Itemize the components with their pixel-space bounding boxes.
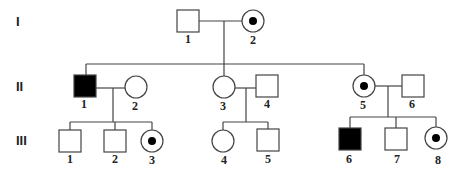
individual-III-4-female	[212, 130, 234, 152]
individual-label-I-1: 1	[185, 32, 191, 47]
generation-label-II: II	[16, 79, 23, 94]
carrier-dot-icon	[360, 82, 368, 90]
individual-II-2-female	[125, 76, 147, 98]
carrier-dot-icon	[148, 137, 156, 145]
individual-II-6-male	[402, 75, 424, 97]
individual-label-III-2: 2	[112, 152, 118, 167]
individual-III-7-male	[385, 128, 407, 150]
individual-label-III-6: 6	[346, 152, 352, 167]
individual-III-5-male	[257, 129, 279, 151]
individual-II-4-male	[256, 75, 278, 97]
individual-label-III-8: 8	[435, 153, 441, 168]
generation-label-I: I	[16, 14, 20, 29]
individual-label-II-1: 1	[81, 97, 87, 112]
individual-label-III-4: 4	[221, 153, 227, 168]
individual-label-II-2: 2	[132, 99, 138, 114]
individual-label-I-2: 2	[250, 33, 256, 48]
individual-I-1-male	[177, 10, 199, 32]
individual-label-II-6: 6	[409, 97, 415, 112]
individual-II-1-male-affected	[74, 75, 96, 97]
pedigree-chart	[0, 0, 465, 174]
individual-label-III-1: 1	[67, 152, 73, 167]
carrier-dot-icon	[249, 17, 257, 25]
generation-label-III: III	[16, 133, 27, 148]
individual-label-III-7: 7	[394, 152, 400, 167]
individual-III-6-male-affected	[339, 128, 361, 150]
individual-label-II-5: 5	[360, 98, 366, 113]
individual-label-III-3: 3	[149, 153, 155, 168]
individual-label-II-3: 3	[220, 99, 226, 114]
individual-III-2-male	[104, 130, 126, 152]
individual-III-1-male	[59, 130, 81, 152]
carrier-dot-icon	[432, 134, 440, 142]
individual-II-3-female	[213, 76, 235, 98]
individual-label-III-5: 5	[265, 152, 271, 167]
individual-label-II-4: 4	[264, 97, 270, 112]
